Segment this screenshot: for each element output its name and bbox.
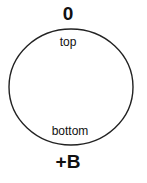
bottom-pole-label: +B [50,152,86,171]
inner-bottom-label: bottom [44,125,96,137]
top-pole-label: 0 [56,4,80,23]
inner-top-label: top [52,36,84,48]
sphere-diagram: 0 top bottom +B [0,0,147,183]
